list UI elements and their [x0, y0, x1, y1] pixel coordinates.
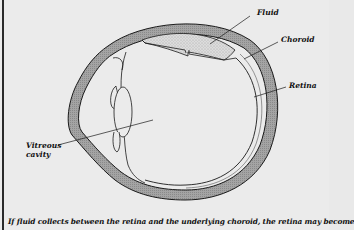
label-fluid: Fluid — [257, 9, 279, 17]
figure-caption: If fluid collects between the retina and… — [8, 217, 354, 226]
label-cavity: cavity — [26, 151, 50, 159]
label-vitreous: Vitreous — [26, 142, 61, 150]
label-choroid: Choroid — [281, 36, 314, 44]
label-retina: Retina — [289, 82, 317, 90]
